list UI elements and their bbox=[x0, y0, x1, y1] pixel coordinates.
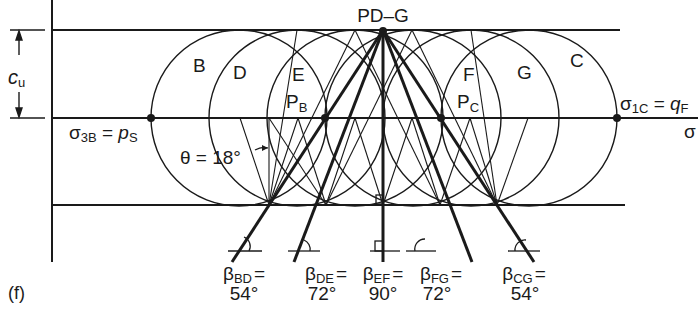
circle-label-C: C bbox=[570, 50, 584, 71]
pb-label: PB bbox=[286, 91, 307, 115]
theta-label: θ = 18° bbox=[180, 147, 241, 168]
circle-label-F: F bbox=[463, 64, 475, 85]
point-pc bbox=[437, 114, 445, 122]
circle-label-G: G bbox=[517, 62, 532, 83]
point-sigma1c bbox=[613, 114, 621, 122]
point-pb bbox=[321, 114, 329, 122]
circle-label-B: B bbox=[193, 55, 206, 76]
mohr-circle-diagram: PD–G cu B D E F G C PB PC σ3B = pS σ1C =… bbox=[0, 0, 698, 314]
sigma3b-label: σ3B = pS bbox=[69, 122, 138, 145]
beta-de-value: 72° bbox=[308, 283, 337, 304]
beta-ef-value: 90° bbox=[369, 283, 398, 304]
beta-bd-value: 54° bbox=[230, 283, 259, 304]
sigma-axis-label: σ bbox=[684, 121, 696, 142]
beta-labels: βBD= 54° βDE= 72° βEF= 90° βFG= 72° βCG=… bbox=[223, 263, 546, 304]
pc-label: PC bbox=[457, 91, 479, 115]
point-pole bbox=[379, 27, 387, 35]
circle-label-E: E bbox=[292, 64, 305, 85]
sigma1c-label: σ1C = qF bbox=[620, 93, 689, 116]
beta-fg-value: 72° bbox=[423, 283, 452, 304]
point-sigma3b bbox=[147, 114, 155, 122]
figure-label: (f) bbox=[8, 283, 25, 303]
beta-cg-value: 54° bbox=[511, 283, 540, 304]
circle-label-D: D bbox=[233, 62, 247, 83]
pole-label: PD–G bbox=[357, 5, 409, 26]
cu-label: cu bbox=[8, 66, 25, 90]
